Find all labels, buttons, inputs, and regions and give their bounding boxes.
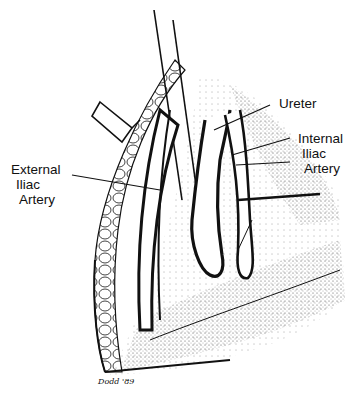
label-line: Artery [11, 192, 61, 207]
label-line: Artery [298, 161, 343, 176]
artist-signature: Dodd '89 [98, 377, 134, 386]
retractor-left [92, 102, 132, 142]
medical-illustration: Ureter Internal Iliac Artery External Il… [0, 0, 352, 401]
internal-iliac-artery-label: Internal Iliac Artery [298, 131, 343, 176]
label-line: Iliac [11, 177, 61, 192]
label-line: Iliac [298, 146, 343, 161]
external-iliac-artery-label: External Iliac Artery [11, 162, 61, 207]
label-line: Internal [298, 131, 343, 146]
label-line: External [11, 162, 61, 177]
ureter-label: Ureter [279, 96, 317, 111]
